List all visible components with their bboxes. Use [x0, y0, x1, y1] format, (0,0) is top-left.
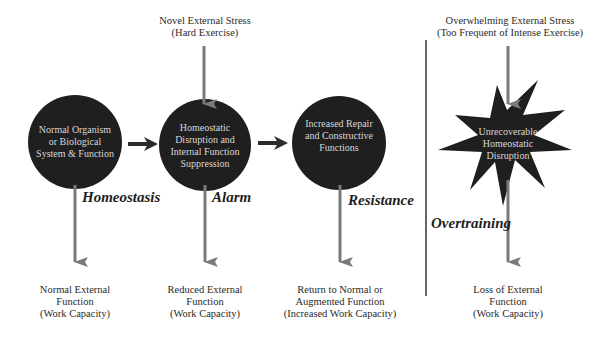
node-text-resistance: Increased Repair and Constructive Functi… — [294, 118, 384, 154]
stage-label-overtraining: Overtraining — [431, 215, 511, 232]
stage-label-resistance: Resistance — [348, 192, 414, 209]
stress-label-novel: Novel External Stress (Hard Exercise) — [144, 15, 266, 39]
stage-label-homeostasis: Homeostasis — [82, 189, 160, 206]
stage-label-alarm: Alarm — [212, 189, 251, 206]
outcome-label-resistance: Return to Normal or Augmented Function (… — [275, 284, 405, 320]
node-text-homeostasis: Normal Organism or Biological System & F… — [30, 124, 120, 160]
flow-arrow-2 — [258, 136, 288, 150]
node-text-alarm: Homeostatic Disruption and Internal Func… — [160, 122, 250, 170]
stress-label-overwhelming: Overwhelming External Stress (Too Freque… — [432, 15, 588, 39]
flow-arrow-1 — [128, 137, 158, 151]
outcome-label-alarm: Reduced External Function (Work Capacity… — [150, 284, 260, 320]
outcome-label-homeostasis: Normal External Function (Work Capacity) — [20, 284, 130, 320]
outcome-label-overtraining: Loss of External Function (Work Capacity… — [453, 284, 563, 320]
node-text-overtraining: Unrecoverable Homeostatic Disruption — [463, 126, 553, 162]
